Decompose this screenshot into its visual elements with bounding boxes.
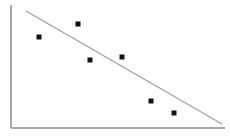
data-point-marker[interactable] — [120, 55, 125, 60]
data-point-marker[interactable] — [37, 35, 42, 40]
data-point-marker[interactable] — [149, 99, 154, 104]
scatter-plot-figure — [0, 0, 230, 139]
plot-canvas — [0, 0, 230, 139]
data-point-marker[interactable] — [76, 22, 81, 27]
plot-background — [0, 0, 230, 139]
data-point-marker[interactable] — [172, 111, 177, 116]
data-point-marker[interactable] — [88, 58, 93, 63]
